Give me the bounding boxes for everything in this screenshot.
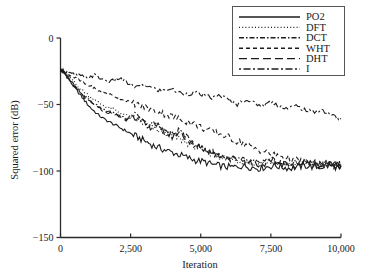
series-line-dct [61,69,342,167]
x-tick-label: 2,500 [119,243,142,254]
chart-legend: PO2DFTDCTWHTDHTI [233,7,345,76]
x-tick-label: 10,000 [327,243,355,254]
y-tick-label: 0 [49,33,54,44]
legend-label-dht: DHT [306,53,328,64]
x-tick-label: 0 [58,243,63,254]
chart-canvas: 0−50−100−150 02,5005,0007,50010,000 Iter… [0,0,369,278]
x-tick-label: 5,000 [190,243,213,254]
y-tick-label: −150 [33,232,54,243]
y-tick-group: 0−50−100−150 [33,33,61,244]
y-axis-title: Squared error (dB) [9,100,21,180]
series-line-i [61,69,342,120]
x-tick-label: 7,500 [260,243,283,254]
series-line-po2 [61,69,342,171]
series-line-dht [61,70,342,169]
y-tick-label: −100 [33,166,54,177]
series-line-dft [61,70,342,168]
legend-label-i: I [306,63,310,74]
chart-figure: 0−50−100−150 02,5005,0007,50010,000 Iter… [0,0,369,278]
x-axis-title: Iteration [182,259,218,270]
series-line-wht [61,69,342,167]
series-group [61,69,342,172]
legend-label-po2: PO2 [306,11,325,22]
x-tick-group: 02,5005,0007,50010,000 [58,234,355,254]
legend-label-dft: DFT [306,22,326,33]
y-tick-label: −50 [38,99,54,110]
legend-label-wht: WHT [306,43,330,54]
legend-label-dct: DCT [306,32,328,43]
